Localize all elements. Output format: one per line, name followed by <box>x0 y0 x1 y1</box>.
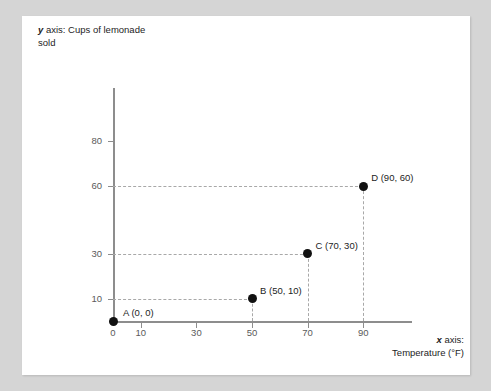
x-axis-tick-label: 90 <box>346 327 380 338</box>
y-axis-line <box>113 88 115 322</box>
y-axis-title-text: axis: Cups of lemonade sold <box>38 24 145 48</box>
point-guide-horizontal <box>113 254 308 255</box>
y-axis-tick-label: 60 <box>68 180 102 191</box>
point-guide-vertical <box>363 186 364 321</box>
data-point-label-a: A (0, 0) <box>123 307 154 318</box>
data-point-label-b: B (50, 10) <box>260 285 302 296</box>
data-point-c <box>303 249 312 258</box>
x-axis-tick-label: 10 <box>124 327 158 338</box>
chart-card: y axis: Cups of lemonade sold x axis:Tem… <box>22 16 470 375</box>
y-axis-tick <box>108 141 114 142</box>
point-guide-vertical <box>308 254 309 322</box>
x-axis-title-text: axis: <box>442 334 464 345</box>
screenshot-root: y axis: Cups of lemonade sold x axis:Tem… <box>0 0 491 391</box>
x-axis-line <box>113 321 412 323</box>
x-axis-tick-label: 50 <box>235 327 269 338</box>
data-point-a <box>109 317 118 326</box>
point-guide-horizontal <box>113 299 252 300</box>
point-guide-horizontal <box>113 186 363 187</box>
scatter-plot: y axis: Cups of lemonade sold x axis:Tem… <box>22 16 470 375</box>
y-axis-tick-label: 30 <box>68 248 102 259</box>
data-point-b <box>248 294 257 303</box>
y-axis-tick-label: 80 <box>68 135 102 146</box>
data-point-label-d: D (90, 60) <box>371 172 413 183</box>
data-point-d <box>359 182 368 191</box>
x-axis-tick-label: 30 <box>179 327 213 338</box>
y-axis-title: y axis: Cups of lemonade sold <box>38 24 148 49</box>
data-point-label-c: C (70, 30) <box>316 240 358 251</box>
y-axis-tick-label: 10 <box>68 293 102 304</box>
x-axis-title-text-line2: Temperature (°F) <box>392 347 464 358</box>
x-axis-tick-label: 70 <box>291 327 325 338</box>
